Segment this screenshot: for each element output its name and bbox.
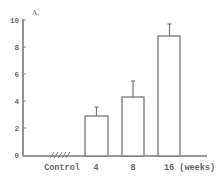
x-label-16-weeks: 16 (weeks) bbox=[164, 163, 215, 173]
y-tick-label: 4 bbox=[14, 98, 19, 106]
x-tick-labels: Control 4 8 16 (weeks) bbox=[44, 163, 215, 173]
panel-label: A. bbox=[31, 9, 39, 17]
bar-4-weeks bbox=[85, 107, 108, 156]
bar-16-weeks bbox=[158, 24, 180, 156]
x-label-8: 8 bbox=[130, 163, 135, 173]
y-tick-label: 8 bbox=[14, 44, 19, 52]
y-tick-label: 2 bbox=[14, 125, 19, 133]
bar-chart: A. 10 8 6 4 2 0 bbox=[0, 0, 222, 181]
y-tick-labels: 10 8 6 4 2 0 bbox=[10, 17, 20, 160]
control-hatch-marks bbox=[50, 152, 70, 158]
x-label-control: Control bbox=[44, 163, 80, 173]
y-tick-label: 6 bbox=[14, 71, 19, 79]
y-tick-label: 0 bbox=[14, 152, 19, 160]
x-label-4: 4 bbox=[93, 163, 98, 173]
y-tick-label: 10 bbox=[10, 17, 20, 25]
bar-8-weeks bbox=[122, 81, 144, 156]
